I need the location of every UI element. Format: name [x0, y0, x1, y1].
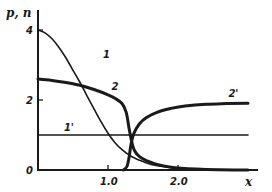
series-1-prime-label: 1' — [64, 122, 74, 133]
series-group: 121'2' — [38, 30, 248, 170]
x-tick-label: 1.0 — [100, 176, 118, 187]
y-axis-label: p, n — [6, 6, 31, 20]
series-2-prime-label: 2' — [228, 88, 238, 99]
chart: 1.02.0024 121'2' p, n x — [0, 0, 272, 192]
x-axis-label: x — [244, 175, 253, 189]
series-2-label: 2 — [112, 81, 119, 92]
axes — [37, 10, 258, 171]
y-tick-label: 4 — [25, 25, 33, 36]
x-tick-label: 2.0 — [170, 176, 188, 187]
series-1-line — [38, 30, 248, 170]
y-tick-label: 0 — [26, 165, 33, 176]
series-1-label: 1 — [103, 49, 110, 60]
y-tick-label: 2 — [26, 95, 33, 106]
